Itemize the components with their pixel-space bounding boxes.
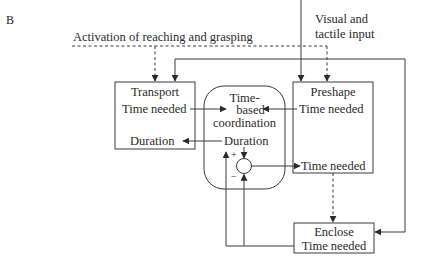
preshape-time-needed-bottom: Time needed <box>301 160 365 173</box>
sensory-input-label-line1: Visual and <box>315 13 368 26</box>
coordination-title-line3: coordination <box>204 117 285 130</box>
preshape-title: Preshape <box>293 86 373 99</box>
activation-label: Activation of reaching and grasping <box>73 31 253 44</box>
comparator-minus-sign: − <box>231 172 237 182</box>
coordination-duration: Duration <box>224 135 268 148</box>
transport-duration: Duration <box>130 135 174 148</box>
enclose-time-needed: Time needed <box>294 240 374 253</box>
coordination-title-line2: based <box>210 104 291 117</box>
comparator-circle <box>237 159 252 174</box>
comparator-plus-sign: + <box>231 150 237 160</box>
sensory-loop-to-enclose-arrow <box>375 59 405 232</box>
transport-time-needed: Time needed <box>122 103 186 116</box>
sensory-loop-to-transport-arrow <box>175 59 405 81</box>
preshape-time-needed-top: Time needed <box>299 103 363 116</box>
panel-label: B <box>6 14 14 26</box>
sensory-input-label-line2: tactile input <box>315 28 374 41</box>
transport-title: Transport <box>115 86 195 99</box>
enclose-title: Enclose <box>294 226 374 239</box>
